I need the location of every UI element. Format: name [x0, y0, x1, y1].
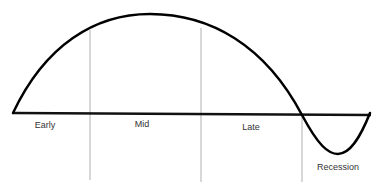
phase-label-mid: Mid: [135, 119, 150, 129]
baseline-axis: [13, 113, 371, 115]
phase-label-recession: Recession: [317, 162, 359, 172]
phase-label-late: Late: [242, 122, 260, 132]
business-cycle-diagram: Early Mid Late Recession: [0, 0, 381, 190]
cycle-curve: [13, 14, 370, 154]
phase-label-early: Early: [35, 120, 56, 130]
